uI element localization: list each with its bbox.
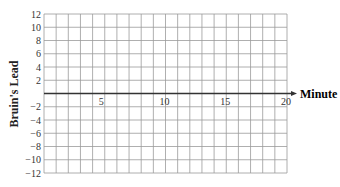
x-tick-label: 20	[281, 96, 291, 107]
y-tick-label: −4	[30, 115, 41, 126]
y-tick-label: −8	[30, 141, 41, 152]
y-axis-label: Bruin's Lead	[7, 54, 22, 134]
y-tick-label: 2	[36, 75, 41, 86]
x-axis-arrow-icon	[291, 91, 297, 96]
y-tick-label: −12	[25, 168, 41, 179]
y-tick-label: 6	[36, 48, 41, 59]
y-tick-label: −6	[30, 128, 41, 139]
y-tick-label: −2	[30, 101, 41, 112]
x-axis-label: Minute	[300, 87, 338, 101]
y-tick-label: 12	[31, 9, 41, 20]
x-tick-label: 15	[220, 96, 230, 107]
x-tick-label: 10	[160, 96, 170, 107]
y-tick-label: 10	[31, 22, 41, 33]
y-tick-label: 4	[36, 62, 41, 73]
empty-coordinate-grid: Minute510152012108642−2−4−6−8−10−12	[0, 0, 340, 187]
x-tick-label: 5	[99, 96, 104, 107]
y-tick-label: −10	[25, 154, 41, 165]
y-tick-label: 8	[36, 35, 41, 46]
